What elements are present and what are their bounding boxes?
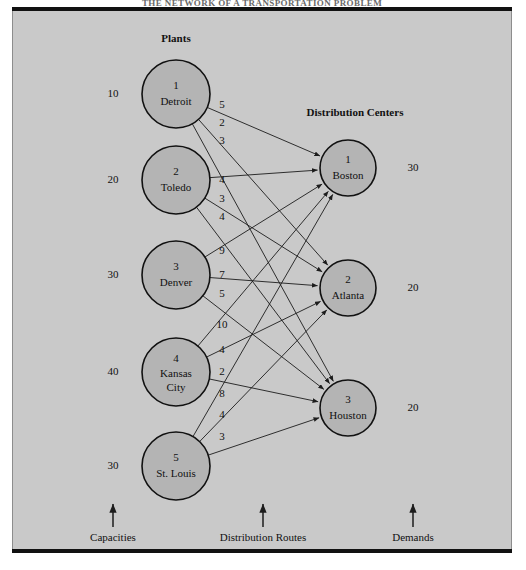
node-index: 4 (173, 352, 179, 364)
node-atlanta[interactable]: 2Atlanta (320, 260, 376, 316)
node-detroit[interactable]: 1Detroit (142, 60, 210, 128)
node-name: Boston (332, 169, 364, 181)
node-index: 2 (345, 273, 351, 285)
node-name: Houston (329, 409, 367, 421)
edge-cost-kansas-city-to-houston: 2 (219, 365, 225, 377)
footer-capacities-label: Capacities (90, 531, 136, 543)
edge-cost-st-louis-to-atlanta: 4 (219, 408, 225, 420)
node-toledo[interactable]: 2Toledo (142, 146, 210, 214)
footer-routes-label: Distribution Routes (220, 531, 306, 543)
footer-demands-label: Demands (392, 531, 434, 543)
figure-page: THE NETWORK OF A TRANSPORTATION PROBLEM … (0, 0, 526, 570)
edge-cost-toledo-to-atlanta: 3 (219, 192, 225, 204)
node-denver[interactable]: 3Denver (142, 241, 210, 309)
node-kansas-city[interactable]: 4KansasCity (142, 338, 210, 406)
edge-cost-st-louis-to-houston: 3 (219, 430, 225, 442)
edge-cost-st-louis-to-boston: 8 (219, 387, 225, 399)
demand-atlanta: 20 (408, 281, 420, 293)
node-name: Kansas (160, 367, 192, 379)
capacity-toledo: 20 (108, 173, 120, 185)
node-name: City (167, 381, 186, 393)
node-name: Denver (160, 276, 193, 288)
node-index: 1 (173, 79, 179, 91)
edge-toledo-to-boston (210, 170, 318, 178)
capacity-st-louis: 30 (108, 459, 120, 471)
edge-cost-denver-to-boston: 9 (219, 244, 225, 256)
edge-cost-kansas-city-to-boston: 10 (217, 318, 229, 330)
demand-houston: 20 (408, 401, 420, 413)
plants-heading: Plants (161, 32, 191, 44)
node-name: Atlanta (332, 289, 364, 301)
edge-kansas-city-to-houston (209, 379, 318, 402)
footer-demands: Demands (392, 504, 434, 543)
footer-routes: Distribution Routes (220, 504, 306, 543)
edge-st-louis-to-houston (208, 418, 319, 455)
node-name: Detroit (160, 95, 191, 107)
edge-cost-kansas-city-to-atlanta: 4 (219, 343, 225, 355)
node-st-louis[interactable]: 5St. Louis (142, 432, 210, 500)
network-diagram: 1Detroit2Toledo3Denver4KansasCity5St. Lo… (0, 0, 526, 570)
node-houston[interactable]: 3Houston (320, 380, 376, 436)
node-index: 3 (173, 260, 179, 272)
node-name: St. Louis (156, 467, 196, 479)
capacity-kansas-city: 40 (108, 365, 120, 377)
edge-cost-detroit-to-boston: 5 (219, 98, 225, 110)
edge-labels-layer: 5234349751042843 (217, 98, 229, 442)
capacity-detroit: 10 (108, 87, 120, 99)
node-boston[interactable]: 1Boston (320, 140, 376, 196)
distribution-centers-heading: Distribution Centers (307, 106, 405, 118)
edge-cost-toledo-to-boston: 4 (219, 173, 225, 185)
demand-boston: 30 (408, 161, 420, 173)
node-index: 3 (345, 393, 351, 405)
node-index: 2 (173, 165, 179, 177)
edge-cost-toledo-to-houston: 4 (219, 210, 225, 222)
edge-denver-to-atlanta (210, 278, 318, 286)
edge-cost-detroit-to-atlanta: 2 (219, 116, 225, 128)
edges-layer (192, 107, 333, 455)
node-name: Toledo (161, 181, 192, 193)
node-index: 5 (173, 451, 179, 463)
edge-cost-denver-to-atlanta: 7 (219, 268, 225, 280)
edge-cost-denver-to-houston: 5 (219, 287, 225, 299)
node-index: 1 (345, 153, 351, 165)
nodes-layer: 1Detroit2Toledo3Denver4KansasCity5St. Lo… (142, 60, 376, 500)
footer-capacities: Capacities (90, 504, 136, 543)
edge-cost-detroit-to-houston: 3 (219, 134, 225, 146)
capacity-denver: 30 (108, 268, 120, 280)
